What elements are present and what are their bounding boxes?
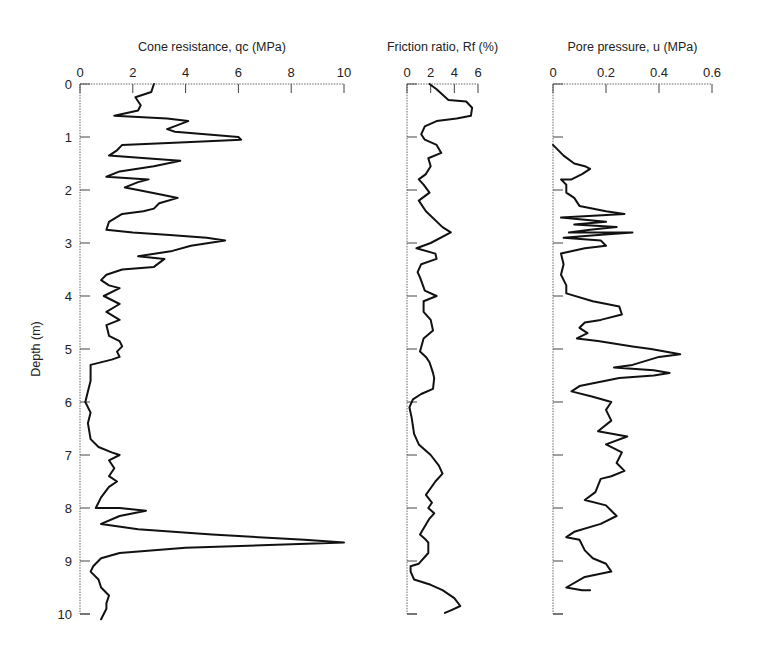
x-tick-label: 4 [182, 65, 189, 80]
y-tick-label: 7 [65, 448, 72, 463]
x-tick-label: 6 [235, 65, 242, 80]
y-tick-label: 9 [65, 554, 72, 569]
panel-title: Cone resistance, qc (MPa) [138, 40, 286, 54]
x-tick-label: 0.4 [650, 65, 668, 80]
y-tick-label: 6 [65, 395, 72, 410]
cone-resistance-panel: Cone resistance, qc (MPa)024681001234567… [58, 40, 352, 622]
x-tick-label: 0.6 [703, 65, 721, 80]
y-tick-label: 5 [65, 342, 72, 357]
y-tick-label: 2 [65, 183, 72, 198]
pore-pressure-panel: Pore pressure, u (MPa)00.20.40.6 [549, 40, 721, 614]
x-tick-label: 6 [474, 65, 481, 80]
x-tick-label: 0 [549, 65, 556, 80]
x-tick-label: 8 [288, 65, 295, 80]
x-tick-label: 0 [76, 65, 83, 80]
qc-profile-line [85, 84, 344, 619]
x-tick-label: 0.2 [597, 65, 615, 80]
u-profile-line [553, 145, 680, 590]
x-tick-label: 10 [337, 65, 351, 80]
panel-title: Friction ratio, Rf (%) [387, 40, 498, 54]
x-tick-label: 0 [403, 65, 410, 80]
y-tick-label: 3 [65, 236, 72, 251]
x-tick-label: 2 [427, 65, 434, 80]
cpt-profile-figure: Cone resistance, qc (MPa)024681001234567… [0, 0, 757, 652]
panel-title: Pore pressure, u (MPa) [568, 40, 698, 54]
y-tick-label: 10 [58, 607, 72, 622]
y-tick-label: 8 [65, 501, 72, 516]
x-tick-label: 2 [129, 65, 136, 80]
y-tick-label: 4 [65, 289, 72, 304]
x-tick-label: 4 [451, 65, 458, 80]
friction-ratio-panel: Friction ratio, Rf (%)0246 [387, 40, 498, 614]
y-axis-label: Depth (m) [29, 321, 43, 377]
y-tick-label: 1 [65, 130, 72, 145]
y-tick-label: 0 [65, 77, 72, 92]
Rf-profile-line [409, 84, 472, 613]
